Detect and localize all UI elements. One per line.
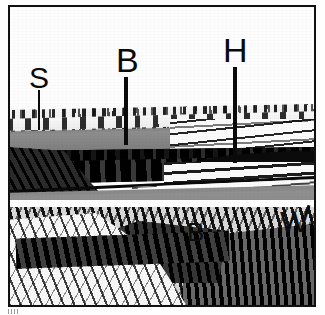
outcrop-scene: S B H B W	[10, 7, 314, 305]
label-b-lower: B	[187, 219, 204, 245]
figure-frame: S B H B W	[8, 5, 316, 307]
leader-line-b-top	[124, 77, 128, 145]
scan-artifact	[8, 309, 19, 314]
sky-background	[10, 7, 314, 110]
label-b-top: B	[116, 43, 139, 77]
label-h: H	[223, 33, 248, 67]
label-s: S	[29, 63, 49, 93]
leader-line-s	[38, 90, 40, 130]
leader-line-h	[233, 67, 237, 163]
figure-root: S B H B W	[0, 0, 325, 315]
